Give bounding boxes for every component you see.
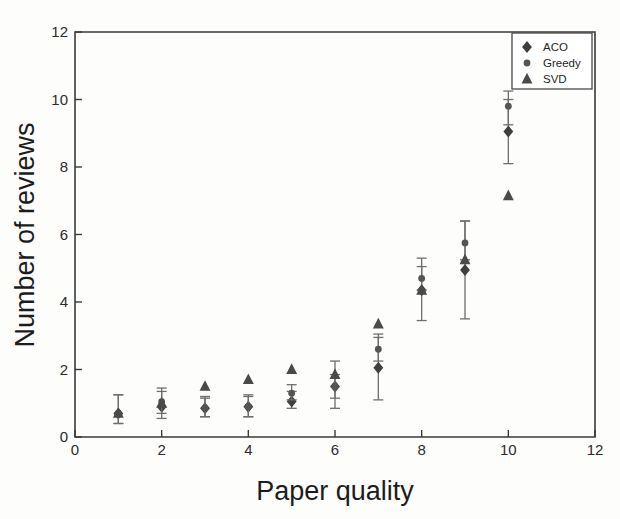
data-point-svd — [373, 318, 384, 329]
data-point-svd — [243, 373, 254, 384]
x-tick-label: 0 — [71, 441, 79, 458]
data-point-svd — [200, 380, 211, 391]
circle-icon — [524, 60, 531, 67]
x-tick-label: 4 — [244, 441, 252, 458]
data-point-aco — [503, 126, 513, 138]
data-point-greedy — [332, 383, 339, 390]
data-point-greedy — [462, 240, 469, 247]
data-point-svd — [330, 368, 341, 379]
x-tick-label: 6 — [331, 441, 339, 458]
x-tick-label: 2 — [157, 441, 165, 458]
legend-label: SVD — [543, 73, 567, 85]
y-tick-label: 2 — [60, 361, 68, 378]
figure-container: 024681012 024681012 Paper quality Number… — [0, 0, 620, 519]
scatter-chart: 024681012 024681012 Paper quality Number… — [0, 0, 620, 519]
data-point-svd — [460, 254, 471, 265]
data-point-greedy — [202, 405, 209, 412]
series-svd — [113, 189, 514, 417]
data-point-greedy — [288, 390, 295, 397]
data-point-aco — [373, 362, 383, 374]
x-axis-title: Paper quality — [256, 476, 414, 506]
data-point-greedy — [505, 103, 512, 110]
x-tick-label: 10 — [500, 441, 517, 458]
y-axis-ticks: 024681012 — [51, 23, 82, 445]
x-tick-label: 8 — [417, 441, 425, 458]
data-point-greedy — [375, 346, 382, 353]
x-axis-ticks: 024681012 — [71, 430, 604, 458]
legend-label: Greedy — [543, 57, 581, 69]
data-point-svd — [503, 189, 514, 200]
data-point-svd — [156, 397, 167, 408]
series-greedy — [113, 91, 513, 423]
data-point-greedy — [418, 275, 425, 282]
data-point-svd — [286, 363, 297, 374]
data-points-layer — [113, 91, 514, 423]
x-tick-label: 12 — [587, 441, 604, 458]
y-tick-label: 0 — [60, 428, 68, 445]
legend-label: ACO — [543, 41, 568, 53]
y-tick-label: 10 — [51, 91, 68, 108]
y-tick-label: 4 — [60, 293, 68, 310]
data-point-aco — [460, 264, 470, 276]
legend: ACOGreedySVD — [512, 33, 592, 89]
data-point-greedy — [245, 403, 252, 410]
y-axis-title: Number of reviews — [10, 122, 40, 347]
series-aco — [113, 100, 513, 424]
y-tick-label: 8 — [60, 158, 68, 175]
y-tick-label: 12 — [51, 23, 68, 40]
y-tick-label: 6 — [60, 226, 68, 243]
